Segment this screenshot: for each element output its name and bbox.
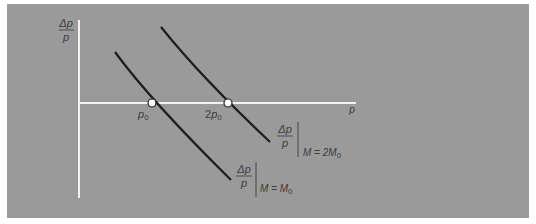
marker-p0 [148,99,156,107]
tick-2p0-base: p [210,108,217,120]
tick-p0-base: p [137,108,144,120]
curve2-label-denominator: p [281,137,288,149]
curve1-condition-prefix: M = M [260,183,289,194]
curve2-condition-sub: 0 [337,151,342,160]
curve-label-m-equals-2m0: Δp p M = 2M0 [277,122,342,160]
diagram-svg: Δp p p p0 2p0 Δp p M = 2M0 Δp p M = M0 [0,0,536,224]
y-axis-label-denominator: p [62,31,69,43]
curve2-label-numerator: Δp [277,123,292,135]
tick-p0-sub: 0 [144,113,149,122]
marker-2p0 [224,99,232,107]
tick-label-2p0: 2p0 [205,108,222,122]
curve1-condition-sub: 0 [288,187,293,196]
y-axis-label-numerator: Δp [58,17,73,29]
tick-label-p0: p0 [137,108,149,122]
curve2-condition: M = 2M0 [303,147,342,160]
curve2-condition-prefix: M = 2M [303,147,337,158]
curve1-condition: M = M0 [260,183,293,196]
tick-2p0-sub: 0 [217,113,222,122]
curve1-label-denominator: p [240,177,247,189]
curve1-label-numerator: Δp [236,163,251,175]
x-axis-label: p [348,104,355,115]
curve-label-m-equals-m0: Δp p M = M0 [236,162,293,197]
